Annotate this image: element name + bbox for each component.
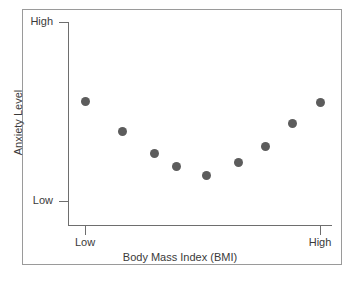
y-axis-tick-label-high: High <box>0 16 53 27</box>
x-axis-tick-low <box>85 226 86 235</box>
y-axis-line <box>68 22 69 226</box>
data-point <box>150 149 159 158</box>
x-axis-title: Body Mass Index (BMI) <box>0 252 360 263</box>
data-point <box>172 162 181 171</box>
x-axis-tick-label-low: Low <box>75 237 95 248</box>
data-point <box>261 142 270 151</box>
x-axis-tick-high <box>320 226 321 235</box>
data-point <box>316 98 325 107</box>
data-point <box>202 171 211 180</box>
y-axis-title: Anxiety Level <box>13 43 24 203</box>
data-point <box>234 158 243 167</box>
y-axis-tick-label-low: Low <box>0 195 53 206</box>
data-point <box>118 127 127 136</box>
data-point <box>288 119 297 128</box>
y-axis-tick-low <box>59 201 68 202</box>
y-axis-tick-high <box>59 22 68 23</box>
x-axis-tick-label-high: High <box>309 237 332 248</box>
scatter-plot-figure: High Low Low High Anxiety Level Body Mas… <box>0 0 360 284</box>
chart-frame-border <box>22 9 342 265</box>
x-axis-line <box>68 225 332 226</box>
data-point <box>81 97 90 106</box>
